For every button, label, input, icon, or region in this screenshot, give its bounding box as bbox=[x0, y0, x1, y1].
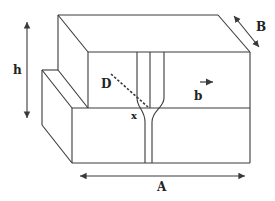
lower-block bbox=[72, 108, 250, 163]
label-d: D bbox=[101, 77, 111, 91]
label-x: x bbox=[131, 110, 138, 121]
block-diagram: h B A D b x bbox=[0, 0, 275, 201]
label-b-depth: B bbox=[256, 20, 266, 34]
step-ledge bbox=[42, 70, 88, 163]
label-a: A bbox=[156, 180, 167, 194]
dashed-line-d bbox=[111, 74, 148, 107]
label-b-flow: b bbox=[194, 89, 202, 103]
label-h: h bbox=[13, 63, 22, 77]
upper-block bbox=[58, 15, 250, 163]
